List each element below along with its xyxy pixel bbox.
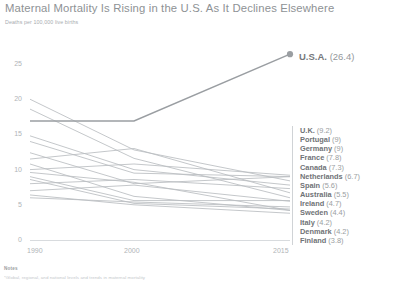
legend-item-name: Italy — [300, 218, 315, 227]
legend-item[interactable]: Spain (5.6) — [300, 181, 404, 190]
usa-annotation: U.S.A. (26.4) — [299, 51, 354, 62]
series-lines — [30, 99, 290, 213]
usa-series-line — [30, 51, 293, 121]
legend-item-name: Germany — [300, 144, 332, 153]
usa-annotation-name: U.S.A. — [299, 51, 327, 62]
series-line — [30, 136, 290, 185]
legend-item-value: (4.2) — [315, 218, 332, 227]
legend-item-value: (9) — [332, 144, 343, 153]
legend-item-name: Portugal — [300, 135, 330, 144]
legend-item[interactable]: France (7.8) — [300, 153, 404, 162]
legend-item-name: Netherlands — [300, 172, 343, 181]
y-tick-label: 20 — [6, 95, 22, 102]
chart-page: Maternal Mortality Is Rising in the U.S.… — [0, 0, 407, 284]
legend-item-name: Sweden — [300, 208, 328, 217]
legend-item[interactable]: Australia (5.5) — [300, 190, 404, 199]
legend-item-name: Canada — [300, 163, 327, 172]
legend-item-value: (7.3) — [327, 163, 344, 172]
legend-item-name: Denmark — [300, 227, 332, 236]
legend-item-value: (9.2) — [315, 126, 332, 135]
legend-item[interactable]: Canada (7.3) — [300, 163, 404, 172]
legend-item-name: U.K. — [300, 126, 315, 135]
series-line — [30, 179, 290, 209]
usa-annotation-value: (26.4) — [330, 51, 355, 62]
y-tick-label: 5 — [6, 201, 22, 208]
notes-body: *Global, regional, and national levels a… — [4, 275, 334, 280]
legend-item[interactable]: Portugal (9) — [300, 135, 404, 144]
legend-item[interactable]: Denmark (4.2) — [300, 227, 404, 236]
legend-item[interactable]: Italy (4.2) — [300, 218, 404, 227]
x-tick-label: 1990 — [27, 247, 43, 254]
legend-item-value: (6.7) — [343, 172, 360, 181]
notes-heading: Notes — [4, 266, 18, 271]
y-tick-label: 25 — [6, 60, 22, 67]
legend-item-value: (4.4) — [328, 208, 345, 217]
legend-item-name: Australia — [300, 190, 332, 199]
series-line — [30, 198, 290, 207]
legend-item-value: (5.5) — [332, 190, 349, 199]
y-tick-label: 15 — [6, 130, 22, 137]
legend-item-value: (9) — [330, 135, 341, 144]
y-tick-label: 10 — [6, 166, 22, 173]
y-tick-label: 0 — [6, 236, 22, 243]
legend-item-name: France — [300, 153, 324, 162]
usa-endpoint-marker — [287, 51, 293, 57]
legend-item-value: (7.8) — [324, 153, 341, 162]
legend-item[interactable]: U.K. (9.2) — [300, 126, 404, 135]
series-line — [30, 141, 290, 176]
series-line — [30, 99, 290, 181]
legend-item[interactable]: Finland (3.8) — [300, 236, 404, 245]
legend-item-value: (4.2) — [332, 227, 349, 236]
x-tick-label: 2000 — [124, 247, 140, 254]
legend-item-value: (3.8) — [326, 236, 343, 245]
legend: U.K. (9.2)Portugal (9)Germany (9)France … — [292, 126, 404, 245]
legend-item-value: (4.7) — [324, 199, 341, 208]
legend-item[interactable]: Sweden (4.4) — [300, 208, 404, 217]
series-line — [30, 153, 290, 184]
legend-item[interactable]: Ireland (4.7) — [300, 199, 404, 208]
series-line — [30, 54, 290, 121]
x-tick-label: 2015 — [273, 247, 289, 254]
legend-item[interactable]: Germany (9) — [300, 144, 404, 153]
legend-item-name: Spain — [300, 181, 320, 190]
legend-item[interactable]: Netherlands (6.7) — [300, 172, 404, 181]
legend-item-name: Finland — [300, 236, 326, 245]
legend-item-value: (5.6) — [320, 181, 337, 190]
legend-item-name: Ireland — [300, 199, 324, 208]
